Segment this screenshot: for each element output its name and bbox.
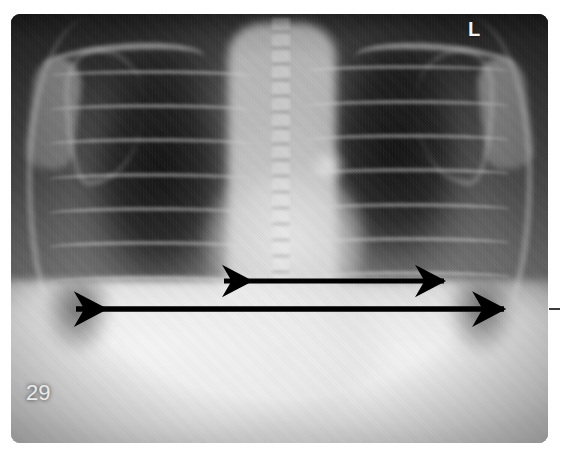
right-costophrenic-angle xyxy=(43,280,113,374)
aortic-knob xyxy=(301,143,355,190)
chest-radiograph-image: L 29 xyxy=(11,14,548,443)
right-margin-tick xyxy=(549,308,560,310)
figure-root: L 29 xyxy=(0,0,561,450)
panel-number-label: 29 xyxy=(26,380,50,406)
side-marker-icon: L xyxy=(468,18,481,41)
left-costophrenic-angle xyxy=(446,280,516,374)
